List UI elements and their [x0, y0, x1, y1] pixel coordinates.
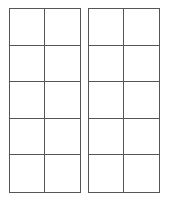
- frame-cell: [124, 46, 159, 83]
- frame-cell: [89, 9, 124, 46]
- frame-cell: [89, 119, 124, 156]
- frame-cell: [45, 46, 80, 83]
- ten-frame-left: [9, 8, 81, 193]
- frame-cell: [10, 9, 45, 46]
- frame-cell: [45, 119, 80, 156]
- frame-cell: [124, 119, 159, 156]
- ten-frame-right: [88, 8, 160, 193]
- frame-cell: [124, 82, 159, 119]
- frame-cell: [45, 82, 80, 119]
- frame-cell: [10, 119, 45, 156]
- frame-cell: [89, 155, 124, 192]
- frame-cell: [45, 9, 80, 46]
- frame-cell: [10, 155, 45, 192]
- frame-cell: [124, 155, 159, 192]
- frame-cell: [124, 9, 159, 46]
- frame-cell: [10, 82, 45, 119]
- frame-cell: [89, 46, 124, 83]
- frame-cell: [45, 155, 80, 192]
- frame-cell: [89, 82, 124, 119]
- frame-cell: [10, 46, 45, 83]
